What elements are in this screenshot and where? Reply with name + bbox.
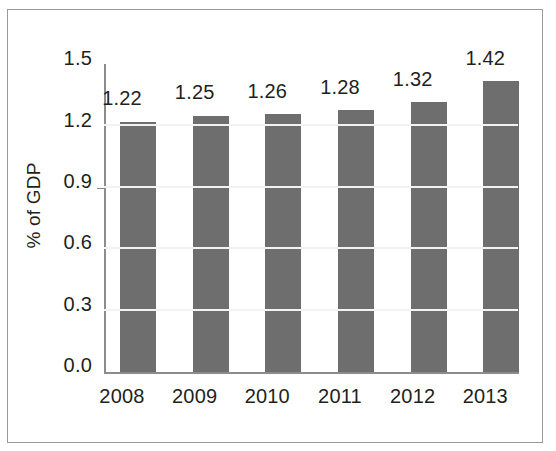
bar-2009[interactable] [193,116,229,372]
gridline-0-6 [104,247,518,249]
bar-value-2009: 1.25 [158,82,232,102]
y-axis-tick-labels: 0.0 0.3 0.6 0.9 1.2 1.5 [40,0,92,451]
bar-value-2011: 1.28 [303,77,377,97]
bar-2010[interactable] [265,114,301,372]
plot-area [104,65,518,372]
bar-2012[interactable] [411,102,447,372]
bar-value-2010: 1.26 [230,81,304,101]
y-tick-label-5: 1.5 [46,48,92,68]
x-tick-label-2008: 2008 [85,386,159,406]
y-tick-label-4: 1.2 [46,110,92,130]
y-tick-label-1: 0.3 [46,294,92,314]
bar-value-2012: 1.32 [376,69,450,89]
bar-value-2013: 1.42 [448,48,522,68]
x-tick-label-2013: 2013 [448,386,522,406]
y-tick-label-0: 0.0 [46,355,92,375]
gridline-0-3 [104,309,518,311]
x-tick-label-2012: 2012 [376,386,450,406]
x-axis-line [104,372,519,374]
gridline-1-2 [104,124,518,126]
x-tick-label-2009: 2009 [158,386,232,406]
x-tick-label-2011: 2011 [303,386,377,406]
x-tick-label-2010: 2010 [230,386,304,406]
y-tick-label-2: 0.6 [46,232,92,252]
y-tick-label-3: 0.9 [46,171,92,191]
bar-value-2008: 1.22 [85,88,159,108]
figure: % of GDP 0.0 0.3 0.6 0.9 1.2 1.5 1.22 1.… [0,0,556,451]
bar-2011[interactable] [338,110,374,372]
gridline-0-9 [104,186,518,188]
